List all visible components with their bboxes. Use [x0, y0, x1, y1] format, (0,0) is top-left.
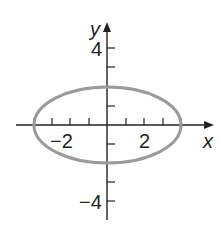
x-tick-label-neg2: −2: [50, 130, 73, 152]
y-axis: [103, 22, 115, 220]
y-tick-label-4: 4: [91, 38, 102, 60]
x-axis: [16, 118, 214, 129]
y-axis-arrow-icon: [103, 22, 111, 32]
x-axis-label: x: [202, 130, 214, 152]
chart-canvas: y x 4 −4 −2 2: [0, 0, 220, 232]
y-tick-label-neg4: −4: [79, 191, 102, 213]
x-tick-label-2: 2: [139, 130, 150, 152]
x-axis-arrow-icon: [204, 121, 214, 129]
y-axis-label: y: [88, 18, 101, 40]
